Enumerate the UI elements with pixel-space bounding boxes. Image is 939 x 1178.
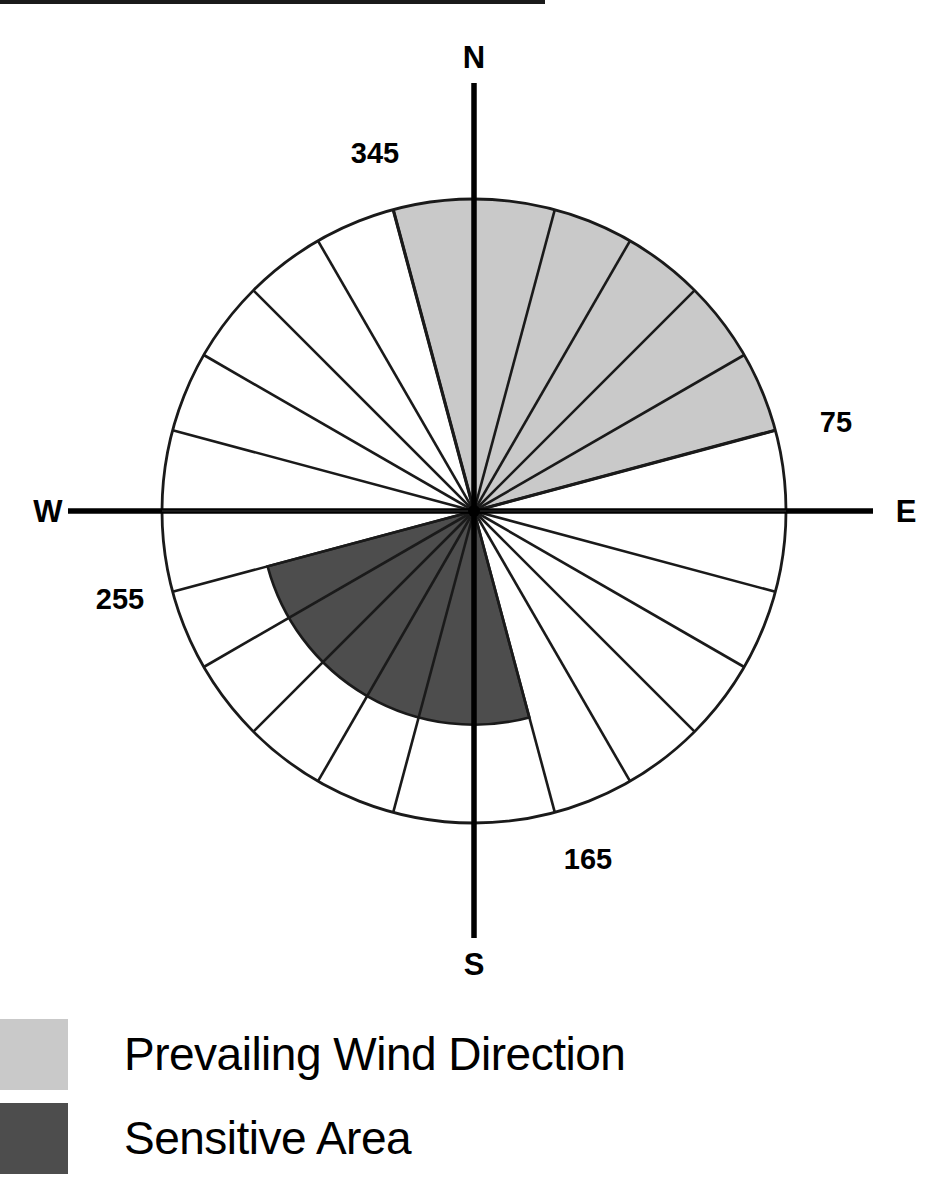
prevailing-wind-wedge [393, 199, 775, 511]
label-degree-75: 75 [820, 406, 852, 438]
spoke-300 [204, 355, 474, 511]
wind-rose-svg: N E S W 345 75 165 255 [0, 0, 939, 1010]
legend-label-sensitive-area: Sensitive Area [124, 1115, 411, 1161]
label-south: S [464, 947, 485, 982]
legend-item-sensitive-area: Sensitive Area [0, 1096, 939, 1178]
legend-label-prevailing-wind: Prevailing Wind Direction [124, 1031, 625, 1077]
legend-swatch-sensitive-area [0, 1103, 68, 1174]
center-point [468, 505, 480, 517]
label-degree-255: 255 [96, 583, 144, 615]
label-west: W [33, 494, 63, 529]
legend-swatch-prevailing-wind [0, 1019, 68, 1090]
legend: Prevailing Wind Direction Sensitive Area [0, 1012, 939, 1178]
label-degree-165: 165 [564, 843, 612, 875]
spoke-120 [474, 511, 744, 667]
legend-item-prevailing-wind: Prevailing Wind Direction [0, 1012, 939, 1096]
spoke-285 [173, 430, 474, 511]
label-north: N [463, 40, 485, 75]
label-degree-345: 345 [351, 137, 399, 169]
spoke-105 [474, 511, 775, 592]
label-east: E [896, 494, 917, 529]
sensitive-area-wedge [268, 511, 530, 725]
